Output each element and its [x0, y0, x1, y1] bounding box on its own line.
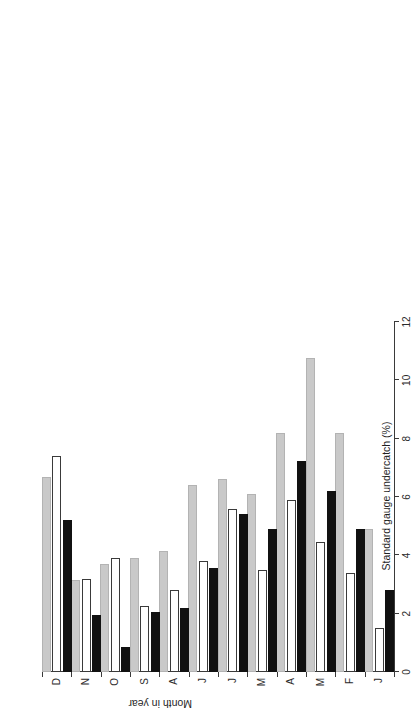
value-axis-tick: [394, 496, 399, 497]
bar-series-1-A-7: [180, 608, 189, 672]
bar-series-3-D-11: [42, 477, 51, 672]
category-axis-tick: [130, 672, 131, 677]
category-axis-tick-label: F: [344, 678, 355, 694]
category-axis-tick: [394, 672, 395, 677]
bar-series-3-A-3: [276, 433, 285, 672]
bar-series-1-D-11: [63, 520, 72, 672]
category-axis-tick-label: A: [168, 678, 179, 694]
bar-series-3-F-1: [335, 433, 344, 672]
bar-series-2-M-2: [316, 542, 325, 672]
bar-series-2-J-6: [199, 561, 208, 672]
bar-series-2-A-7: [170, 590, 179, 672]
category-axis-tick-label: O: [109, 678, 120, 694]
value-axis-tick-label: 6: [401, 482, 412, 512]
category-axis-tick: [189, 672, 190, 677]
bar-series-1-M-2: [327, 491, 336, 672]
bar-series-3-N-10: [71, 580, 80, 672]
bar-series-1-A-3: [297, 461, 306, 672]
category-axis-tick: [335, 672, 336, 677]
value-axis-tick-label: 12: [401, 307, 412, 337]
value-axis-tick: [394, 613, 399, 614]
bar-series-2-J-5: [228, 509, 237, 672]
bar-series-3-J-0: [364, 529, 373, 672]
bar-series-3-A-7: [159, 551, 168, 672]
value-axis-title: Standard gauge undercatch (%): [380, 320, 392, 672]
bar-series-2-F-1: [346, 573, 355, 672]
bar-series-3-M-2: [306, 358, 315, 672]
rotated-figure-wrapper: 024681012JFMAMJJASOND Standard gauge und…: [0, 0, 415, 712]
category-axis-title: Month in year: [128, 698, 192, 710]
value-axis-tick-label: 2: [401, 599, 412, 629]
category-axis-tick-label: D: [51, 678, 62, 694]
bar-series-2-D-11: [52, 456, 61, 672]
bar-series-2-S-8: [140, 606, 149, 672]
value-axis-tick-label: 0: [401, 657, 412, 687]
bar-series-3-O-9: [100, 564, 109, 672]
category-axis-tick-label: J: [227, 678, 238, 694]
category-axis-tick: [277, 672, 278, 677]
bar-series-3-J-5: [218, 480, 227, 673]
category-axis-tick: [247, 672, 248, 677]
category-axis-tick-label: M: [315, 678, 326, 694]
category-axis-tick-label: N: [80, 678, 91, 694]
bar-series-1-J-6: [209, 568, 218, 672]
value-axis-tick: [394, 321, 399, 322]
category-axis-tick-label: M: [256, 678, 267, 694]
value-axis-tick-label: 10: [401, 365, 412, 395]
value-axis-tick: [394, 554, 399, 555]
bar-series-1-S-8: [151, 612, 160, 672]
category-axis-tick-label: S: [139, 678, 150, 694]
category-axis-tick-label: J: [373, 678, 384, 694]
category-axis-tick: [101, 672, 102, 677]
bar-series-3-J-6: [188, 485, 197, 672]
category-axis-tick-label: A: [285, 678, 296, 694]
category-axis-tick: [306, 672, 307, 677]
category-axis-tick-label: J: [197, 678, 208, 694]
bar-series-2-A-3: [287, 500, 296, 672]
bar-chart-figure: 024681012JFMAMJJASOND Standard gauge und…: [0, 0, 415, 712]
value-axis-tick-label: 8: [401, 424, 412, 454]
bar-series-3-S-8: [130, 558, 139, 672]
bar-series-2-N-10: [82, 579, 91, 672]
value-axis-tick: [394, 438, 399, 439]
bar-series-2-M-4: [258, 570, 267, 672]
bar-series-2-O-9: [111, 558, 120, 672]
bar-series-1-J-5: [239, 515, 248, 673]
bar-series-1-N-10: [92, 615, 101, 672]
bar-series-1-O-9: [121, 647, 130, 672]
bar-series-3-M-4: [247, 494, 256, 672]
category-axis-tick: [159, 672, 160, 677]
category-axis-tick: [42, 672, 43, 677]
bar-series-1-M-4: [268, 529, 277, 672]
value-axis-tick-label: 4: [401, 540, 412, 570]
category-axis-tick: [218, 672, 219, 677]
category-axis-tick: [365, 672, 366, 677]
category-axis-tick: [71, 672, 72, 677]
bar-series-1-F-1: [356, 529, 365, 672]
plot-area: 024681012JFMAMJJASOND: [42, 320, 394, 672]
value-axis-tick: [394, 379, 399, 380]
